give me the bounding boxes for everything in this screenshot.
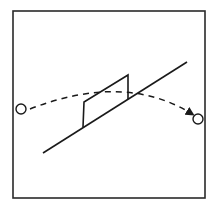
end-object-icon	[193, 114, 203, 124]
obstacle-block	[83, 75, 128, 127]
diagram-canvas	[0, 0, 215, 207]
start-object-icon	[16, 104, 26, 114]
ramp-line	[43, 62, 187, 153]
